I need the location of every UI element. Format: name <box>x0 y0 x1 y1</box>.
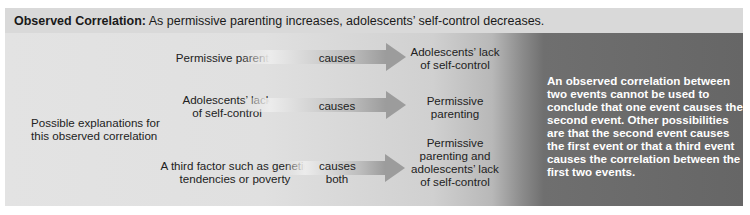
explanation-3-effect: Permissive parenting and adolescents’ la… <box>409 136 501 188</box>
possible-explanations-label: Possible explanations for this observed … <box>31 116 171 142</box>
explanation-1-effect: Adolescents’ lack of self-control <box>407 45 503 71</box>
explanation-1-verb: causes <box>315 51 359 64</box>
header-text: As permissive parenting increases, adole… <box>149 14 545 28</box>
explanation-3-verb: causes both <box>319 159 355 185</box>
explanation-2-effect: Permissive parenting <box>417 94 493 120</box>
explanation-2-verb: causes <box>315 99 359 112</box>
header-lead: Observed Correlation: <box>14 14 146 28</box>
observed-correlation-header: Observed Correlation: As permissive pare… <box>5 8 743 33</box>
correlation-diagram: Observed Correlation: As permissive pare… <box>5 8 743 206</box>
conclusion-note: An observed correlation between two even… <box>547 74 747 178</box>
